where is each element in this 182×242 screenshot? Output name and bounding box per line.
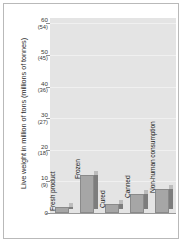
y-tick-mark <box>46 118 50 119</box>
x-axis-category-label: Fresh product <box>49 171 56 210</box>
y-tick-primary: 10 <box>18 175 48 181</box>
gridline <box>50 55 176 56</box>
bar <box>155 189 169 213</box>
chart-frame: Live weight in million of tons (millions… <box>3 3 179 239</box>
y-tick-label: 40(36) <box>18 81 48 94</box>
y-tick-secondary: (9) <box>18 183 48 189</box>
bar <box>80 175 94 213</box>
y-tick-label: 10(9) <box>18 175 48 188</box>
bar-side-face <box>94 171 98 209</box>
y-tick-mark <box>46 23 50 24</box>
y-tick-label: 20(18) <box>18 144 48 157</box>
bar <box>130 194 144 213</box>
y-tick-mark <box>46 213 50 214</box>
bar-top-face <box>169 185 173 189</box>
gridline <box>50 118 176 119</box>
x-axis-category-label: Non-human consumption <box>149 122 156 194</box>
y-tick-label: 50(45) <box>18 49 48 62</box>
gridline <box>50 181 176 182</box>
y-tick-secondary: (45) <box>18 56 48 62</box>
y-tick-mark <box>46 55 50 56</box>
x-axis-category-label: Cured <box>99 190 106 207</box>
y-tick-primary: 20 <box>18 144 48 150</box>
bar-front-face <box>155 189 169 213</box>
bar-top-face <box>144 190 148 194</box>
y-axis-tick-labels: 60(54)50(45)40(36)30(27)20(18)10(9)0 <box>18 4 48 242</box>
bar-front-face <box>55 207 69 213</box>
y-tick-primary: 50 <box>18 49 48 55</box>
bar <box>55 207 69 213</box>
y-tick-primary: 60 <box>18 17 48 23</box>
y-tick-secondary: (18) <box>18 151 48 157</box>
gridline <box>50 23 176 24</box>
y-tick-label: 0 <box>18 210 48 216</box>
bar-front-face <box>80 175 94 213</box>
y-tick-secondary: (54) <box>18 25 48 31</box>
y-tick-primary: 30 <box>18 112 48 118</box>
gridline <box>50 87 176 88</box>
bar-top-face <box>69 203 73 207</box>
bar-top-face <box>119 200 123 204</box>
bar <box>105 204 119 213</box>
bar-front-face <box>105 204 119 213</box>
y-tick-label: 60(54) <box>18 17 48 30</box>
x-axis-category-label: Frozen <box>74 159 81 179</box>
bar-front-face <box>130 194 144 213</box>
y-tick-label: 30(27) <box>18 112 48 125</box>
y-tick-secondary: (36) <box>18 88 48 94</box>
x-axis-category-label: Canned <box>124 176 131 199</box>
y-tick-secondary: (27) <box>18 120 48 126</box>
y-tick-primary: 40 <box>18 81 48 87</box>
plot-area <box>50 18 176 214</box>
y-tick-primary: 0 <box>18 210 48 216</box>
y-tick-mark <box>46 87 50 88</box>
bar-top-face <box>94 171 98 175</box>
y-tick-mark <box>46 150 50 151</box>
x-axis-line <box>50 213 176 214</box>
gridline <box>50 150 176 151</box>
